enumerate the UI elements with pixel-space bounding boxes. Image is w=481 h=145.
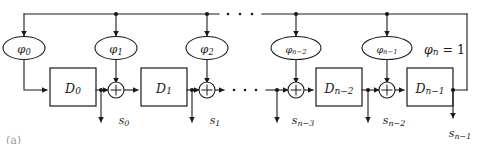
phi0-to-D0-wire bbox=[24, 60, 47, 91]
lfsr-circuit-diagram: φ0 φ1 φ2 φn−2 φn−1 bbox=[0, 0, 481, 144]
top-bus-ellipsis bbox=[227, 13, 254, 16]
s0-label: s0 bbox=[119, 114, 130, 128]
sn-1-label: sn−1 bbox=[449, 127, 471, 141]
coefficient-phin-2[interactable]: φn−2 bbox=[271, 37, 321, 60]
coefficient-phin-1[interactable]: φn−1 bbox=[362, 37, 412, 60]
s1-label: s1 bbox=[210, 114, 221, 128]
adder-n-2[interactable] bbox=[288, 82, 304, 98]
adder-n-1[interactable] bbox=[379, 82, 395, 98]
delay-D0[interactable]: D0 bbox=[50, 68, 96, 106]
coefficient-group: φ0 φ1 φ2 φn−2 φn−1 bbox=[3, 37, 412, 60]
adder-0[interactable] bbox=[108, 82, 124, 98]
phin-equals-one-label: φn = 1 bbox=[424, 42, 465, 58]
coefficient-phi1[interactable]: φ1 bbox=[95, 37, 137, 60]
sn-3-label: sn−3 bbox=[292, 114, 314, 128]
delay-Dn-1[interactable]: Dn−1 bbox=[407, 68, 453, 106]
coefficient-phi2[interactable]: φ2 bbox=[186, 37, 228, 60]
delay-Dn-2[interactable]: Dn−2 bbox=[316, 68, 362, 106]
adder-1[interactable] bbox=[199, 82, 215, 98]
coefficient-phi0[interactable]: φ0 bbox=[3, 37, 45, 60]
feedback-tap-label-group: φn = 1 bbox=[424, 42, 465, 58]
bus-to-coefficient-drops bbox=[24, 14, 387, 36]
delay-D1[interactable]: D1 bbox=[141, 68, 187, 106]
data-line-ellipsis bbox=[233, 89, 258, 92]
figure-container: φ0 φ1 φ2 φn−2 φn−1 bbox=[0, 0, 481, 144]
sn-2-label: sn−2 bbox=[383, 114, 405, 128]
figure-caption: (a) bbox=[6, 134, 21, 145]
